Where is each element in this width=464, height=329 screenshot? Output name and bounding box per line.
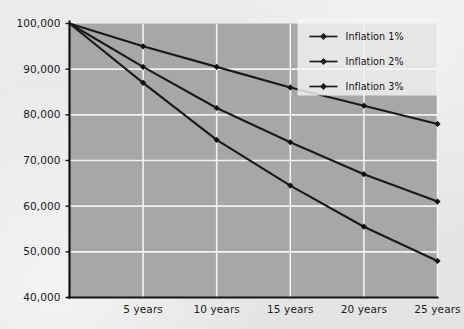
chart-canvas: 100,00090,00080,00070,00060,00050,00040,… bbox=[0, 0, 464, 329]
y-axis-tick-label: 90,000 bbox=[23, 63, 60, 75]
y-axis-tick-label: 40,000 bbox=[23, 291, 60, 303]
legend-label-2: Inflation 2% bbox=[346, 56, 404, 67]
x-axis-tick-label: 10 years bbox=[193, 303, 239, 315]
line-chart: 100,00090,00080,00070,00060,00050,00040,… bbox=[0, 0, 464, 329]
y-axis-tick-label: 50,000 bbox=[23, 245, 60, 257]
legend-label-1: Inflation 1% bbox=[346, 31, 404, 42]
y-axis-tick-label: 100,000 bbox=[16, 17, 60, 29]
y-axis-tick-label: 60,000 bbox=[23, 200, 60, 212]
x-axis-tick-label: 5 years bbox=[123, 303, 163, 315]
x-axis-tick-label: 15 years bbox=[267, 303, 313, 315]
x-axis-tick-label: 25 years bbox=[414, 303, 460, 315]
x-axis-tick-label: 20 years bbox=[341, 303, 387, 315]
y-axis-tick-label: 80,000 bbox=[23, 108, 60, 120]
legend-label-3: Inflation 3% bbox=[346, 81, 404, 92]
y-axis-tick-label: 70,000 bbox=[23, 154, 60, 166]
